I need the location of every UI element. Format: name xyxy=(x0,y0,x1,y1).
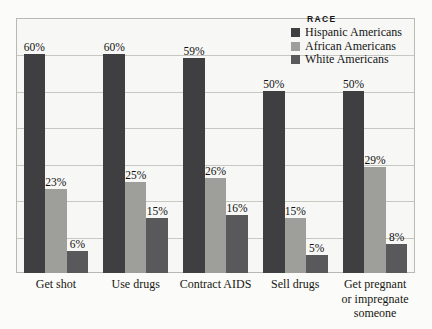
legend-label: White Americans xyxy=(305,53,389,66)
category-label-line: Get pregnant xyxy=(327,277,423,292)
legend-label: African Americans xyxy=(305,40,396,53)
bar[interactable]: 8% xyxy=(386,244,408,273)
category-label-line: or impregnate xyxy=(327,292,423,307)
legend: RACE Hispanic AmericansAfrican Americans… xyxy=(291,14,417,67)
category-axis-labels: Get shotUse drugsContract AIDSSell drugs… xyxy=(16,277,415,327)
bar[interactable]: 6% xyxy=(67,251,89,273)
legend-label: Hispanic Americans xyxy=(305,26,402,39)
bar[interactable]: 26% xyxy=(205,178,227,273)
bar[interactable]: 60% xyxy=(103,54,125,273)
bar[interactable]: 23% xyxy=(45,189,67,273)
bar[interactable]: 5% xyxy=(306,255,328,273)
bar[interactable]: 15% xyxy=(285,218,307,273)
bar[interactable]: 15% xyxy=(146,218,168,273)
legend-swatch-icon xyxy=(291,42,300,51)
bar-value-label: 23% xyxy=(45,176,66,188)
legend-swatch-icon xyxy=(291,55,300,64)
bar-value-label: 5% xyxy=(309,242,324,254)
bar-value-label: 50% xyxy=(263,78,284,90)
bar-group: 60%23%6% xyxy=(16,18,96,273)
bar-chart-figure: 60%23%6%60%25%15%59%26%16%50%15%5%50%29%… xyxy=(0,0,432,329)
bar[interactable]: 16% xyxy=(226,215,248,273)
bar[interactable]: 59% xyxy=(183,58,205,273)
category-label: Get pregnantor impregnatesomeone xyxy=(327,277,423,321)
bar[interactable]: 50% xyxy=(263,91,285,273)
legend-item-1[interactable]: African Americans xyxy=(291,40,417,54)
bar-value-label: 29% xyxy=(365,154,386,166)
category-label-line: someone xyxy=(327,306,423,321)
bar-value-label: 50% xyxy=(343,78,364,90)
bar-value-label: 15% xyxy=(147,205,168,217)
legend-title: RACE xyxy=(307,14,417,24)
bar[interactable]: 60% xyxy=(24,54,46,273)
bar[interactable]: 50% xyxy=(343,91,365,273)
legend-swatch-icon xyxy=(291,28,300,37)
legend-items: Hispanic AmericansAfrican AmericansWhite… xyxy=(291,26,417,67)
bar[interactable]: 25% xyxy=(125,182,147,273)
legend-item-0[interactable]: Hispanic Americans xyxy=(291,26,417,40)
bar-value-label: 59% xyxy=(183,45,204,57)
bar[interactable]: 29% xyxy=(364,167,386,273)
bar-group: 60%25%15% xyxy=(96,18,176,273)
bar-value-label: 60% xyxy=(24,41,45,53)
bar-value-label: 25% xyxy=(125,169,146,181)
bar-value-label: 16% xyxy=(226,202,247,214)
bar-value-label: 15% xyxy=(285,205,306,217)
bar-value-label: 8% xyxy=(389,231,404,243)
bar-value-label: 60% xyxy=(104,41,125,53)
bar-value-label: 26% xyxy=(205,165,226,177)
bar-group: 59%26%16% xyxy=(176,18,256,273)
legend-item-2[interactable]: White Americans xyxy=(291,53,417,67)
bar-value-label: 6% xyxy=(70,238,85,250)
